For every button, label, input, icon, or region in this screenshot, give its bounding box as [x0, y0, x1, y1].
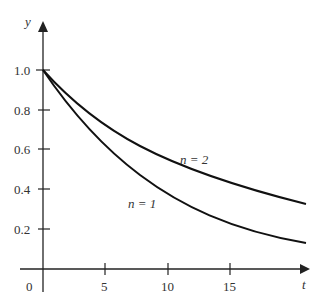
y-tick-label: 0.8	[14, 103, 30, 118]
x-axis-label: t	[302, 277, 306, 292]
x-tick-label: 10	[161, 279, 174, 294]
y-axis-label: y	[23, 14, 31, 29]
y-axis-arrow-icon	[38, 21, 48, 32]
x-tick-label: 15	[223, 279, 236, 294]
y-tick-label: 0.2	[14, 222, 30, 237]
y-tick-label: 1.0	[14, 63, 30, 78]
y-tick-label: 0.4	[14, 182, 31, 197]
chart: 1.0 0.8 0.6 0.4 0.2 0 5 10 15 y t n = 2 …	[0, 0, 321, 294]
label-n2: n = 2	[180, 152, 209, 167]
x-tick-label-origin: 0	[26, 279, 33, 294]
label-n1: n = 1	[128, 196, 156, 211]
curve-n2	[43, 70, 306, 204]
x-axis-arrow-icon	[300, 264, 310, 274]
y-tick-label: 0.6	[14, 142, 31, 157]
curve-n1	[43, 70, 306, 243]
x-tick-label: 5	[101, 279, 108, 294]
